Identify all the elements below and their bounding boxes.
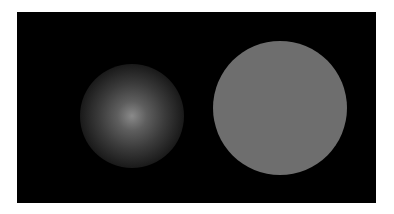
solid-gray-disc: [213, 41, 347, 175]
blurred-disc: [80, 64, 184, 168]
black-panel: [17, 12, 376, 203]
